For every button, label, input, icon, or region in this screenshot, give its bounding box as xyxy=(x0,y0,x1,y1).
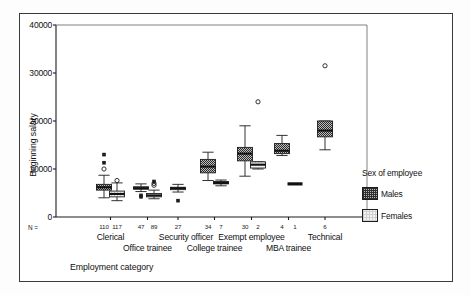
outlier-marker xyxy=(323,64,327,68)
y-tick-label: 0 xyxy=(8,212,52,222)
y-tick-label: 30000 xyxy=(8,68,52,78)
boxplot-females-college-trainee xyxy=(214,180,229,186)
extreme-marker xyxy=(102,153,106,157)
n-value-label: 27 xyxy=(166,223,190,230)
boxplot-males-mba-trainee xyxy=(275,135,290,155)
legend-label-males: Males xyxy=(381,189,403,199)
legend-title: Sex of employee xyxy=(362,168,462,178)
category-label: MBA trainee xyxy=(244,243,334,253)
x-axis-title: Employment category xyxy=(70,262,153,272)
legend-item-females: Females xyxy=(362,209,462,222)
extreme-marker xyxy=(176,199,180,203)
n-value-label: 89 xyxy=(142,223,166,230)
outlier-marker xyxy=(115,178,119,182)
males-swatch-icon xyxy=(362,187,378,200)
boxplot-males-exempt-employee xyxy=(238,126,253,176)
outlier-marker xyxy=(256,100,260,104)
y-tick-label: 10000 xyxy=(8,164,52,174)
boxplot-males-technical xyxy=(318,64,333,150)
y-tick-label: 40000 xyxy=(8,20,52,30)
y-axis-title: Beginning salary xyxy=(28,90,38,200)
legend-item-males: Males xyxy=(362,187,462,200)
extreme-marker xyxy=(139,194,143,198)
females-swatch-icon xyxy=(362,209,378,222)
extreme-marker xyxy=(152,180,156,184)
chart-screenshot: Beginning salary Employment category N =… xyxy=(0,0,471,295)
box-layer xyxy=(97,64,333,203)
boxplot-males-college-trainee xyxy=(201,152,216,180)
extreme-marker xyxy=(102,161,106,165)
boxplot-females-security-officer xyxy=(171,184,186,202)
n-value-label: 117 xyxy=(105,223,129,230)
category-label: Technical xyxy=(280,232,370,242)
n-value-label: 6 xyxy=(313,223,337,230)
n-legend-label: N = xyxy=(28,224,38,231)
outlier-marker xyxy=(102,167,106,171)
n-value-label: 1 xyxy=(283,223,307,230)
legend-label-females: Females xyxy=(381,211,412,221)
y-tick-label: 20000 xyxy=(8,116,52,126)
legend: Sex of employee Males Females xyxy=(362,168,462,222)
n-value-label: 2 xyxy=(246,223,270,230)
n-value-label: 7 xyxy=(209,223,233,230)
